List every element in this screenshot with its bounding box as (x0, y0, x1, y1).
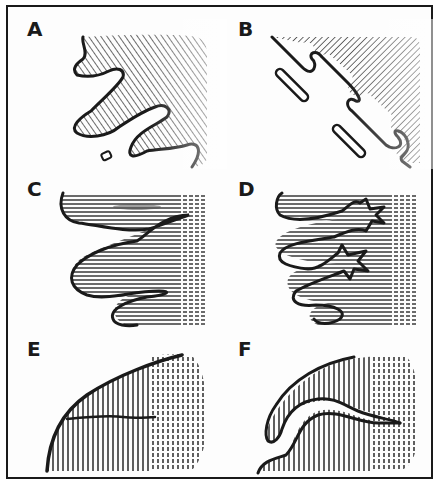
panel-b: B (238, 19, 438, 169)
panel-e-illustration (27, 339, 227, 487)
panel-c: C (27, 179, 227, 329)
figure-frame: A B (6, 5, 433, 479)
panel-a-illustration (27, 19, 227, 169)
panel-d: D (238, 179, 438, 329)
panel-f-illustration (238, 339, 438, 487)
panel-c-illustration (27, 179, 227, 329)
panel-d-illustration (238, 179, 438, 329)
panel-f: F (238, 339, 438, 487)
panel-b-illustration (238, 19, 438, 169)
panel-e: E (27, 339, 227, 487)
panel-a: A (27, 19, 227, 169)
